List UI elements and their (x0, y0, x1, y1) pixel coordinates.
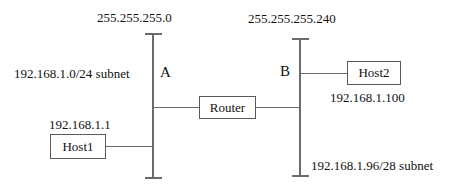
host1-ip-label: 192.168.1.1 (49, 117, 111, 132)
left-subnet-mask-label: 255.255.255.0 (97, 10, 172, 25)
host2-label: Host2 (358, 66, 389, 80)
right-bus-bottom-cap (292, 175, 309, 177)
network-diagram: Router Host1 Host2 255.255.255.0 255.255… (0, 0, 458, 191)
host2-link (300, 73, 347, 74)
host2-ip-label: 192.168.1.100 (330, 90, 405, 105)
host1-label: Host1 (62, 140, 93, 154)
router-link-left (152, 107, 200, 108)
left-bus-line (152, 33, 154, 179)
router-label: Router (210, 101, 245, 115)
host2-node[interactable]: Host2 (347, 61, 401, 85)
left-subnet-label: 192.168.1.0/24 subnet (14, 66, 130, 81)
host1-link (105, 146, 153, 147)
host1-node[interactable]: Host1 (50, 134, 106, 159)
left-bus-bottom-cap (145, 177, 162, 179)
router-node[interactable]: Router (199, 96, 256, 119)
router-link-right (255, 107, 300, 108)
interface-a-label: A (160, 64, 171, 80)
interface-b-label: B (280, 63, 290, 79)
right-subnet-mask-label: 255.255.255.240 (248, 11, 336, 26)
right-subnet-label: 192.168.1.96/28 subnet (311, 158, 433, 173)
